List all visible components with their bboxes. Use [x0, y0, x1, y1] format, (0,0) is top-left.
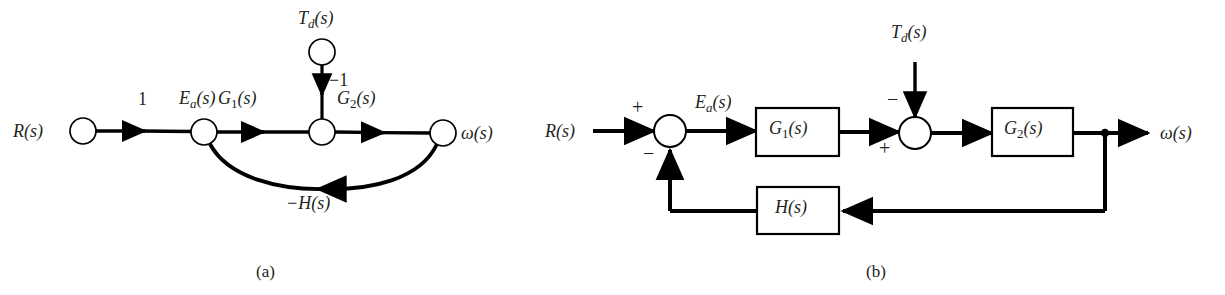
- label-r-input-b: R(s): [545, 121, 575, 142]
- control-system-figure: [0, 0, 1225, 295]
- label-block-g2: G2(s): [1004, 118, 1042, 142]
- label-gain-g2: G2(s): [337, 88, 375, 112]
- summing-junction-1: [654, 115, 686, 147]
- label-gain-g1: G1(s): [218, 88, 256, 112]
- sign-summer1-minus: −: [643, 142, 654, 165]
- label-gain-minus-one: −1: [329, 70, 348, 91]
- node-summing: [309, 119, 335, 145]
- sign-summer1-plus: +: [632, 96, 643, 119]
- label-gain-minus-h: −H(s): [286, 193, 330, 214]
- label-td-input-b: Td(s): [891, 22, 927, 46]
- edge-r-to-ea-tail: [140, 131, 191, 132]
- label-omega-output-b: ω(s): [1160, 123, 1192, 144]
- node-r: [70, 118, 96, 144]
- branch-point-dot: [1101, 129, 1109, 137]
- caption-panel-a: (a): [256, 262, 275, 282]
- sign-summer2-minus: −: [887, 88, 898, 111]
- caption-panel-b: (b): [866, 262, 886, 282]
- label-ea-node-a: Ea(s): [179, 88, 215, 112]
- node-omega: [430, 120, 456, 146]
- summing-junction-2: [899, 117, 931, 149]
- label-omega-node-a: ω(s): [461, 123, 493, 144]
- sign-summer2-plus: +: [879, 137, 890, 160]
- label-block-h: H(s): [775, 197, 807, 221]
- label-r-input-a: R(s): [13, 121, 43, 142]
- edge-sum-to-omega-arrow: [335, 132, 384, 133]
- node-ea: [191, 119, 217, 145]
- node-td: [309, 39, 335, 65]
- label-block-g1: G1(s): [769, 118, 807, 142]
- label-td-node-a: Td(s): [298, 8, 334, 32]
- label-ea-signal-b: Ea(s): [695, 92, 731, 116]
- label-gain-unity: 1: [138, 89, 147, 110]
